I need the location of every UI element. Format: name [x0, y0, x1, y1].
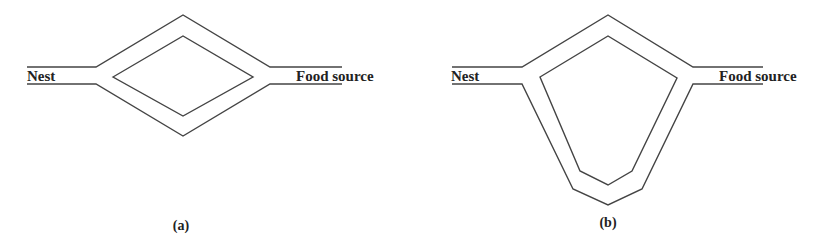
panel-b-caption: (b)	[599, 215, 616, 231]
panel-b-outer-lower-path	[452, 84, 763, 205]
panel-a-inner-diamond	[113, 36, 253, 116]
panel-a-outer-upper-path	[27, 15, 342, 67]
panel-a: Nest Food source (a)	[27, 15, 374, 234]
panel-a-food-source-label: Food source	[296, 68, 374, 84]
panel-a-outer-lower-path	[27, 84, 342, 136]
panel-b-outer-upper-path	[452, 15, 763, 67]
panel-b-food-source-label: Food source	[719, 68, 797, 84]
panel-b: Nest Food source (b)	[451, 15, 797, 231]
panel-a-caption: (a)	[173, 218, 190, 234]
panel-a-nest-label: Nest	[27, 68, 55, 84]
panel-b-nest-label: Nest	[451, 68, 479, 84]
ant-path-diagram: Nest Food source (a) Nest Food source (b…	[0, 0, 823, 252]
